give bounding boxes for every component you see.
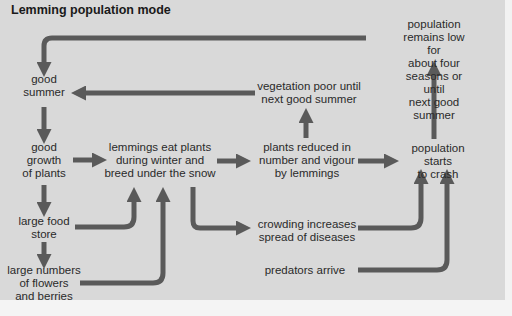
node-vegetation-poor: vegetation poor until next good summer: [257, 80, 361, 106]
arrow-low-to-summer: [44, 38, 366, 68]
node-large-food-store: large food store: [18, 215, 69, 241]
node-good-growth: good growth of plants: [22, 141, 65, 180]
node-crowding: crowding increases spread of diseases: [258, 218, 356, 244]
node-population-low: population remains low for about four se…: [399, 18, 470, 122]
node-large-numbers-flowers: large numbers of flowers and berries: [7, 264, 81, 303]
arrow-flowers-to-lemmings: [80, 196, 163, 283]
node-lemmings-eat: lemmings eat plants during winter and br…: [104, 141, 215, 180]
node-plants-reduced: plants reduced in number and vigour by l…: [259, 141, 355, 180]
arrow-lemmings-to-crowding: [193, 187, 242, 228]
node-good-summer: good summer: [23, 73, 65, 99]
footer-strip: [0, 300, 512, 316]
diagram-panel: Lemming population mode: [0, 0, 505, 300]
arrow-predators-to-crash: [358, 178, 447, 270]
arrow-crowding-to-crash: [358, 178, 421, 228]
node-predators: predators arrive: [265, 264, 346, 277]
node-population-crash: population starts to crash: [405, 142, 472, 181]
arrow-store-to-lemmings: [75, 196, 134, 227]
